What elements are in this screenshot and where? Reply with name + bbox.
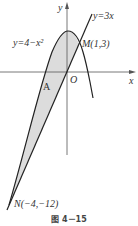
region-a-label: A xyxy=(43,82,50,92)
point-m-label: M(1,3) xyxy=(82,39,110,49)
point-n-label: N(−4,−12) xyxy=(14,199,58,209)
x-axis-label: x xyxy=(129,76,133,86)
y-axis-arrow-icon xyxy=(65,2,69,9)
x-axis-arrow-icon xyxy=(129,70,136,74)
parabola-equation-label: y=4−x² xyxy=(13,38,43,48)
line-equation-label: y=3x xyxy=(93,11,114,21)
y-axis-label: y xyxy=(58,3,62,13)
origin-label: O xyxy=(70,75,77,85)
figure: y x O y=3x y=4−x² M(1,3) A N(−4,−12) 图 4… xyxy=(0,0,138,226)
figure-caption: 图 4－15 xyxy=(0,213,138,224)
graph-svg xyxy=(0,0,138,226)
shaded-region-a xyxy=(9,31,79,205)
